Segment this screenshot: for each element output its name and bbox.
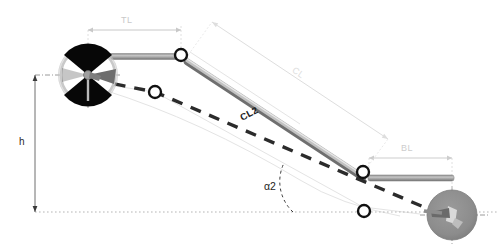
tl-arrow-left bbox=[88, 28, 93, 33]
guide-outline-upper bbox=[101, 84, 420, 214]
joint-group bbox=[149, 49, 370, 217]
rear-rotor-shaft bbox=[424, 211, 442, 213]
dimension-bl bbox=[369, 156, 452, 192]
bl-arrow-right bbox=[447, 156, 452, 161]
joint-mid-front bbox=[149, 86, 161, 98]
cl-arrow-end bbox=[382, 134, 388, 139]
rear-arm-bar bbox=[368, 175, 454, 181]
dimension-h bbox=[33, 75, 38, 212]
guide-outline-group bbox=[101, 52, 420, 216]
mechanism-diagram: TL BL CL CL2 h α2 bbox=[0, 0, 502, 248]
joint-top-front bbox=[175, 49, 187, 61]
dashed-center-path bbox=[95, 80, 440, 214]
guide-outline-link-left bbox=[190, 52, 300, 124]
rear-arm-bar-body bbox=[368, 175, 454, 181]
h-arrow-top bbox=[33, 75, 38, 81]
h-arrow-bottom bbox=[33, 206, 38, 212]
rear-rotor bbox=[424, 190, 477, 240]
guide-outline-lower bbox=[104, 90, 400, 216]
cl-dimension-line bbox=[212, 22, 388, 139]
joint-bottom-rear bbox=[358, 205, 370, 217]
tl-arrow-right bbox=[176, 28, 181, 33]
diagram-canvas bbox=[0, 0, 502, 248]
cl-witness-start bbox=[186, 22, 212, 58]
angle-alpha2-arc bbox=[280, 163, 293, 212]
cl-arrow-start bbox=[212, 22, 218, 27]
joint-top-rear bbox=[357, 166, 369, 178]
front-rotor bbox=[58, 44, 118, 107]
angle-alpha2-group bbox=[280, 163, 293, 212]
